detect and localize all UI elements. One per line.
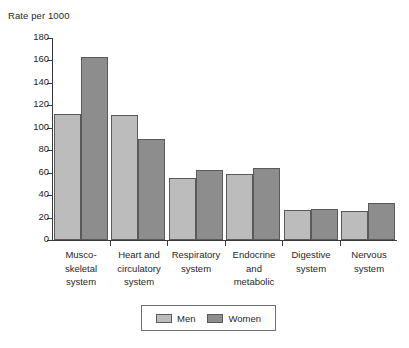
y-tick-label: 40 bbox=[38, 188, 49, 199]
bar bbox=[341, 211, 368, 240]
y-tick-label: 80 bbox=[38, 143, 49, 154]
legend-label: Men bbox=[177, 313, 195, 324]
bar bbox=[253, 168, 280, 240]
x-axis-label: Respiratorysystem bbox=[167, 248, 225, 275]
x-axis-label-line: Musco- bbox=[52, 248, 110, 262]
x-axis-label: Digestivesystem bbox=[282, 248, 340, 275]
y-axis-line bbox=[52, 38, 53, 241]
bar bbox=[111, 115, 138, 240]
legend-item-men[interactable]: Men bbox=[156, 313, 195, 324]
x-axis-label-line: Digestive bbox=[282, 248, 340, 262]
x-axis-label-line: Respiratory bbox=[167, 248, 225, 262]
legend-label: Women bbox=[228, 313, 261, 324]
x-axis-label-line: Heart and bbox=[110, 248, 168, 262]
x-group-separator-tick bbox=[282, 241, 283, 246]
x-axis-label-line: Nervous bbox=[340, 248, 398, 262]
y-tick-label: 160 bbox=[33, 53, 49, 64]
bar bbox=[368, 203, 395, 240]
bar bbox=[284, 210, 311, 240]
bar bbox=[54, 114, 81, 240]
y-tick-label: 60 bbox=[38, 166, 49, 177]
x-axis-label-line: Endocrine bbox=[225, 248, 283, 262]
x-axis-label: Endocrineandmetabolic bbox=[225, 248, 283, 289]
x-axis-labels: Musco-skeletalsystemHeart andcirculatory… bbox=[52, 248, 399, 308]
y-tick-label: 0 bbox=[44, 233, 49, 244]
x-group-separator-tick bbox=[225, 241, 226, 246]
x-axis-label-line: skeletal bbox=[52, 262, 110, 276]
legend-swatch-icon bbox=[156, 314, 172, 323]
bar bbox=[138, 139, 165, 240]
x-axis-label-line: and bbox=[225, 262, 283, 276]
x-axis-label-line: system bbox=[282, 262, 340, 276]
bar-chart: Rate per 1000 180160140120100806040200 M… bbox=[0, 0, 409, 348]
y-axis-title: Rate per 1000 bbox=[8, 10, 70, 21]
plot-area: 180160140120100806040200 bbox=[52, 38, 399, 240]
y-tick-label: 180 bbox=[33, 31, 49, 42]
x-axis-label-line: circulatory bbox=[110, 262, 168, 276]
y-tick-label: 140 bbox=[33, 76, 49, 87]
x-group-separator-tick bbox=[340, 241, 341, 246]
x-group-separator-tick bbox=[167, 241, 168, 246]
x-group-separator-tick bbox=[110, 241, 111, 246]
x-axis-label-line: metabolic bbox=[225, 275, 283, 289]
bar bbox=[81, 57, 108, 240]
legend-swatch-icon bbox=[207, 314, 223, 323]
bar bbox=[196, 170, 223, 240]
x-axis-label-line: system bbox=[52, 275, 110, 289]
legend-item-women[interactable]: Women bbox=[207, 313, 261, 324]
x-axis-label-line: system bbox=[340, 262, 398, 276]
bar bbox=[311, 209, 338, 240]
x-axis-label-line: system bbox=[167, 262, 225, 276]
x-axis-label: Musco-skeletalsystem bbox=[52, 248, 110, 289]
y-tick-label: 120 bbox=[33, 98, 49, 109]
y-tick-label: 20 bbox=[38, 211, 49, 222]
x-axis-label: Heart andcirculatorysystem bbox=[110, 248, 168, 289]
x-axis-label: Nervoussystem bbox=[340, 248, 398, 275]
chart-legend: MenWomen bbox=[141, 305, 276, 331]
y-tick-label: 100 bbox=[33, 121, 49, 132]
bar bbox=[169, 178, 196, 240]
x-axis-label-line: system bbox=[110, 275, 168, 289]
bar bbox=[226, 174, 253, 240]
